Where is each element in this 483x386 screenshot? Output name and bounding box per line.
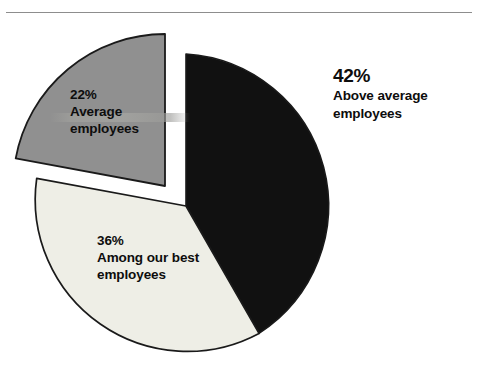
slice-percent-among-our-best: 36% [97, 232, 199, 249]
slice-label-above-average: 42% Above average employees [333, 65, 428, 122]
slice-percent-above-average: 42% [333, 65, 428, 87]
slice-label-average: 22% Average employees [70, 86, 139, 137]
pie-chart-figure: 22% Average employees 36% Among our best… [0, 0, 483, 386]
slice-desc-average-line2: employees [70, 120, 139, 137]
slice-desc-among-our-best-line2: employees [97, 266, 199, 283]
slice-percent-average: 22% [70, 86, 139, 103]
slice-desc-among-our-best-line1: Among our best [97, 249, 199, 266]
slice-desc-above-average-line1: Above average [333, 87, 428, 105]
slice-label-among-our-best: 36% Among our best employees [97, 232, 199, 283]
slice-desc-average-line1: Average [70, 103, 139, 120]
pie-chart-graphic [0, 0, 483, 386]
slice-desc-above-average-line2: employees [333, 105, 428, 123]
